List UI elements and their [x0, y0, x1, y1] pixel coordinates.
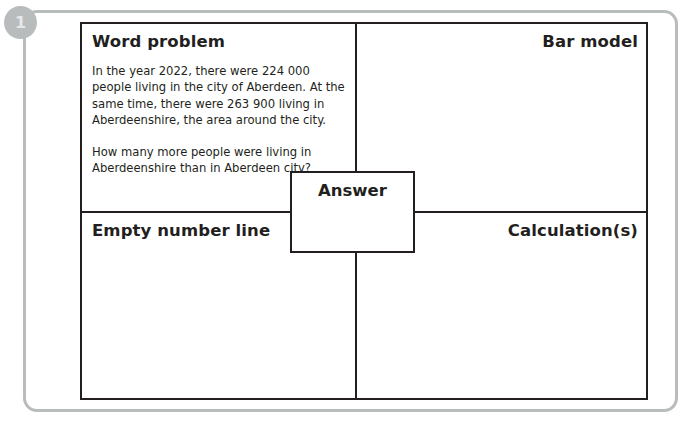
step-number-badge: 1 [4, 6, 37, 39]
answer-box[interactable]: Answer [290, 171, 415, 253]
word-problem-heading: Word problem [92, 32, 225, 51]
empty-number-line-heading: Empty number line [92, 221, 270, 240]
worksheet-slide: 1 Word problem In the year 2022, there w… [0, 0, 696, 425]
bar-model-heading: Bar model [542, 32, 638, 51]
calculations-heading: Calculation(s) [508, 221, 638, 240]
word-problem-text: In the year 2022, there were 224 000 peo… [92, 63, 350, 177]
answer-label: Answer [292, 181, 413, 200]
word-problem-paragraph-1: In the year 2022, there were 224 000 peo… [92, 63, 350, 128]
